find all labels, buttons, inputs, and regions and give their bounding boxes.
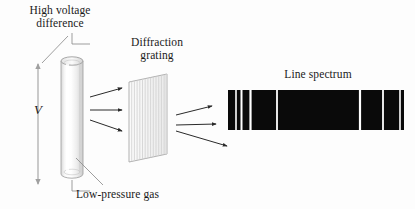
leader-high-voltage-elbow [72, 33, 90, 44]
label-high-voltage-difference: High voltage difference [8, 4, 112, 29]
diffracted-ray-1 [176, 106, 212, 115]
physics-diagram-figure: High voltage difference Diffraction grat… [0, 0, 415, 209]
spectrum-background [228, 90, 404, 130]
diffracted-ray-2 [176, 124, 216, 125]
diffracted-ray-3 [176, 131, 227, 146]
label-diffraction-grating: Diffraction grating [118, 36, 196, 61]
diffraction-grating [129, 74, 167, 162]
incident-rays [90, 88, 122, 131]
label-voltage-symbol: V [31, 104, 45, 117]
line-spectrum-panel [228, 90, 404, 130]
discharge-tube [61, 57, 83, 178]
label-low-pressure-gas: Low-pressure gas [76, 188, 186, 201]
diagram-canvas [0, 0, 415, 209]
incident-ray-3 [90, 120, 122, 131]
diffracted-rays [176, 106, 227, 146]
incident-ray-1 [90, 88, 122, 97]
label-line-spectrum: Line spectrum [262, 68, 374, 81]
